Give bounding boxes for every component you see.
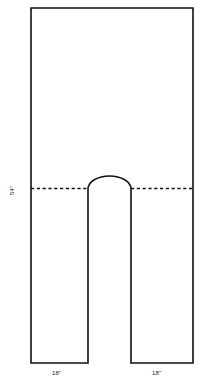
left-leg-dimension-label: 18" xyxy=(52,370,61,376)
right-leg-dimension-label: 18" xyxy=(152,370,161,376)
pattern-outline-svg xyxy=(0,0,209,377)
height-dimension-label: 54" xyxy=(9,186,15,195)
pattern-outline-path xyxy=(31,8,193,363)
pattern-diagram-canvas: 54" 18" 18" xyxy=(0,0,209,377)
